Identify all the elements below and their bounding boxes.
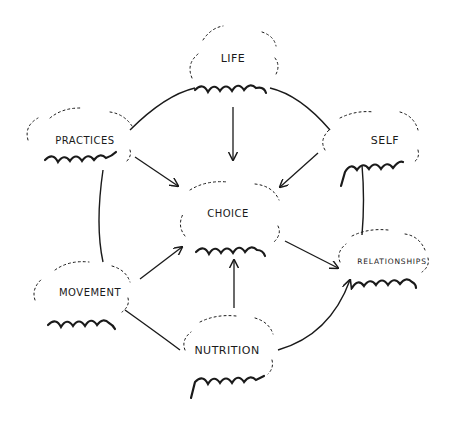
edge-self-relationships	[362, 165, 364, 235]
edge-practices-life	[130, 88, 195, 130]
node-shape-self	[323, 112, 419, 186]
node-label-choice: CHOICE	[207, 208, 249, 219]
edge-movement-nutrition	[125, 310, 180, 350]
arrow-self-choice	[280, 153, 318, 187]
node-label-practices: PRACTICES	[55, 135, 114, 146]
node-label-life: LIFE	[221, 52, 246, 65]
node-label-movement: MOVEMENT	[59, 287, 121, 298]
edge-practices-movement	[99, 170, 103, 262]
arrow-practices-choice	[135, 157, 178, 186]
outer-connectors	[99, 88, 364, 350]
concept-diagram: LIFE PRACTICES SELF CHOICE MOVEMENT RELA…	[0, 0, 462, 423]
node-shape-choice	[180, 182, 279, 256]
node-label-self: SELF	[371, 134, 399, 147]
node-shape-nutrition	[184, 316, 273, 398]
arrow-movement-choice	[140, 247, 182, 279]
node-label-nutrition: NUTRITION	[194, 344, 259, 357]
edge-nutrition-relationships	[278, 280, 350, 350]
arrow-choice-relationships	[285, 241, 338, 268]
node-label-relationships: RELATIONSHIPS	[357, 257, 426, 266]
edge-life-self	[270, 88, 330, 130]
